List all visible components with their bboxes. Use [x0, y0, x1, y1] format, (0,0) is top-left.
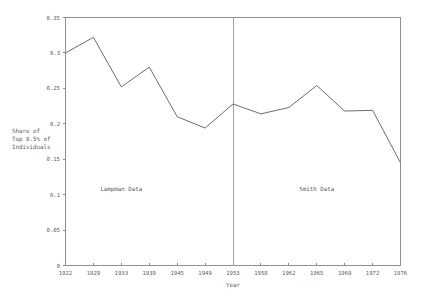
x-axis-tick-labels: 1922192919331939194519491953195819621965…: [59, 270, 407, 276]
x-tick-label: 1922: [59, 270, 72, 276]
x-axis-title: Year: [226, 282, 240, 288]
x-tick-label: 1949: [198, 270, 211, 276]
x-tick-label: 1958: [254, 270, 268, 276]
x-tick-label: 1929: [87, 270, 100, 276]
chart-annotations: Lampman DataSmith Data: [100, 186, 334, 193]
x-tick-label: 1945: [170, 270, 183, 276]
x-axis-title-text: Year: [226, 282, 240, 288]
y-axis-title-line: Individuals: [12, 144, 50, 150]
y-axis-title-line: Share of: [12, 128, 40, 134]
y-tick-label: 0.25: [47, 85, 60, 91]
chart-annotation-label: Smith Data: [299, 186, 334, 192]
x-tick-label: 1972: [366, 270, 379, 276]
chart-annotation-label: Lampman Data: [100, 186, 142, 193]
chart-container: 00.050.10.150.20.250.30.35 1922192919331…: [0, 0, 424, 298]
axis-ticks: [63, 18, 401, 266]
x-tick-label: 1939: [143, 270, 156, 276]
x-tick-label: 1976: [394, 270, 407, 276]
x-tick-label: 1965: [310, 270, 323, 276]
x-tick-label: 1953: [226, 270, 239, 276]
y-tick-label: 0: [57, 263, 60, 269]
y-axis-title: Share ofTop 0.5% ofIndividuals: [12, 128, 51, 150]
y-tick-label: 0.05: [47, 227, 60, 233]
y-tick-label: 0.15: [47, 156, 60, 162]
line-chart: 00.050.10.150.20.250.30.35 1922192919331…: [0, 0, 424, 298]
x-tick-label: 1969: [338, 270, 351, 276]
x-tick-label: 1933: [115, 270, 128, 276]
y-tick-label: 0.1: [50, 192, 60, 198]
y-axis-title-line: Top 0.5% of: [12, 136, 51, 143]
x-tick-label: 1962: [282, 270, 295, 276]
y-tick-label: 0.2: [50, 121, 60, 127]
y-tick-label: 0.3: [50, 50, 60, 56]
y-tick-label: 0.35: [47, 15, 60, 21]
